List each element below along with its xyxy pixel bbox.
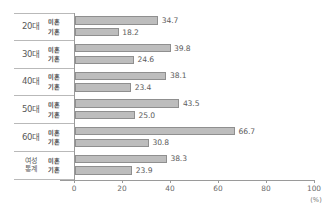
status-label: 미혼 bbox=[48, 19, 74, 25]
bar-group: 43.525.0 bbox=[75, 95, 314, 123]
x-axis-tick-label: 60 bbox=[213, 184, 222, 193]
bar-row: 66.7 bbox=[75, 127, 314, 135]
bar-value-label: 38.3 bbox=[170, 154, 187, 163]
bar bbox=[75, 72, 166, 80]
status-label-cell: 미혼기혼 bbox=[48, 47, 74, 63]
x-axis-tick bbox=[122, 180, 123, 183]
status-label-cell: 미혼기혼 bbox=[48, 19, 74, 35]
x-axis-tick bbox=[218, 180, 219, 183]
category-label: 60대 bbox=[14, 133, 48, 143]
bar-value-label: 38.1 bbox=[170, 71, 187, 80]
bar bbox=[75, 56, 134, 64]
bar-row: 24.6 bbox=[75, 56, 314, 64]
status-label: 기혼 bbox=[48, 112, 74, 118]
bar-value-label: 24.6 bbox=[138, 55, 155, 64]
bar-row: 38.3 bbox=[75, 155, 314, 163]
x-axis-tick bbox=[266, 180, 267, 183]
status-label: 미혼 bbox=[48, 47, 74, 53]
bar-value-label: 23.4 bbox=[135, 83, 152, 92]
bar-value-label: 25.0 bbox=[139, 111, 156, 120]
x-axis-tick-label: 100 bbox=[307, 184, 321, 193]
bar-value-label: 18.2 bbox=[122, 28, 139, 37]
bar-value-label: 43.5 bbox=[183, 99, 200, 108]
bar-row: 43.5 bbox=[75, 99, 314, 107]
bar-row: 38.1 bbox=[75, 72, 314, 80]
bar-value-label: 34.7 bbox=[162, 16, 179, 25]
x-axis-tick bbox=[74, 180, 75, 183]
category-label: 20대 bbox=[14, 22, 48, 32]
bar bbox=[75, 83, 131, 91]
category-label: 여성통계 bbox=[14, 158, 48, 174]
status-label: 기혼 bbox=[48, 29, 74, 35]
bar-chart: 20대미혼기혼30대미혼기혼40대미혼기혼50대미혼기혼60대미혼기혼여성통계미… bbox=[0, 0, 336, 214]
category-row: 20대미혼기혼 bbox=[14, 14, 74, 42]
bar-value-label: 66.7 bbox=[239, 127, 256, 136]
status-label-cell: 미혼기혼 bbox=[48, 102, 74, 118]
bar bbox=[75, 99, 179, 107]
x-axis: 020406080100 bbox=[74, 180, 314, 181]
bar-group: 66.730.8 bbox=[75, 123, 314, 151]
x-axis-tick-label: 40 bbox=[165, 184, 174, 193]
bar-row: 34.7 bbox=[75, 16, 314, 24]
status-label: 미혼 bbox=[48, 130, 74, 136]
status-label: 기혼 bbox=[48, 167, 74, 173]
bar-row: 25.0 bbox=[75, 111, 314, 119]
bar-row: 23.4 bbox=[75, 83, 314, 91]
category-label: 40대 bbox=[14, 77, 48, 87]
plot-area: 34.718.239.824.638.123.443.525.066.730.8… bbox=[74, 13, 314, 180]
x-axis-extension bbox=[60, 180, 74, 181]
bar bbox=[75, 155, 167, 163]
category-label-line: 통계 bbox=[14, 166, 48, 174]
category-row: 여성통계미혼기혼 bbox=[14, 152, 74, 180]
status-label-cell: 미혼기혼 bbox=[48, 74, 74, 90]
x-axis-tick bbox=[170, 180, 171, 183]
bar-group: 34.718.2 bbox=[75, 13, 314, 41]
status-label: 기혼 bbox=[48, 84, 74, 90]
x-axis-tick-label: 0 bbox=[72, 184, 77, 193]
bar bbox=[75, 16, 158, 24]
status-label-cell: 미혼기혼 bbox=[48, 130, 74, 146]
bar-value-label: 23.9 bbox=[136, 166, 153, 175]
x-axis-tick-label: 20 bbox=[117, 184, 126, 193]
category-label: 50대 bbox=[14, 105, 48, 115]
bar-value-label: 39.8 bbox=[174, 44, 191, 53]
axis-unit-label: (%) bbox=[310, 196, 321, 204]
status-label: 기혼 bbox=[48, 56, 74, 62]
bar-row: 23.9 bbox=[75, 166, 314, 174]
bar-group: 38.323.9 bbox=[75, 151, 314, 179]
status-label-cell: 미혼기혼 bbox=[48, 158, 74, 174]
status-label: 미혼 bbox=[48, 158, 74, 164]
category-row: 30대미혼기혼 bbox=[14, 41, 74, 69]
status-label: 미혼 bbox=[48, 74, 74, 80]
status-label: 기혼 bbox=[48, 139, 74, 145]
category-label: 30대 bbox=[14, 50, 48, 60]
bar-row: 39.8 bbox=[75, 44, 314, 52]
category-row: 50대미혼기혼 bbox=[14, 96, 74, 124]
bar bbox=[75, 44, 171, 52]
status-label: 미혼 bbox=[48, 102, 74, 108]
bar-value-label: 30.8 bbox=[152, 138, 169, 147]
bar bbox=[75, 127, 235, 135]
bar-row: 18.2 bbox=[75, 28, 314, 36]
bar-group: 38.123.4 bbox=[75, 68, 314, 96]
bar bbox=[75, 139, 149, 147]
bar bbox=[75, 166, 132, 174]
bar-group: 39.824.6 bbox=[75, 40, 314, 68]
x-axis-tick bbox=[314, 180, 315, 183]
category-row: 40대미혼기혼 bbox=[14, 69, 74, 97]
bar bbox=[75, 111, 135, 119]
x-axis-tick-label: 80 bbox=[261, 184, 270, 193]
category-row: 60대미혼기혼 bbox=[14, 124, 74, 152]
category-label-table: 20대미혼기혼30대미혼기혼40대미혼기혼50대미혼기혼60대미혼기혼여성통계미… bbox=[14, 13, 74, 180]
bar-row: 30.8 bbox=[75, 139, 314, 147]
bar bbox=[75, 28, 119, 36]
